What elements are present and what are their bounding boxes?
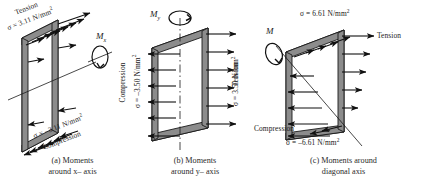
caption-panel-c: (c) Moments around diagonal axis xyxy=(258,156,429,177)
label-tension-b: Tension xyxy=(231,63,240,87)
label-stress-bottom-c: σ = –6.61 N/mm2 xyxy=(286,137,339,147)
stress-arrows-tension-c xyxy=(342,36,374,108)
moment-arrow-diagonal xyxy=(262,41,285,67)
plate-right-edge-c xyxy=(338,30,344,132)
caption-b-line1: (b) Moments xyxy=(120,156,270,167)
plate-right-edge-a xyxy=(52,20,58,133)
label-compression-b: Compression xyxy=(118,62,127,102)
label-tension-c: Tension xyxy=(377,31,401,40)
moment-label-y: My xyxy=(150,9,160,21)
caption-c-line2: diagonal axis xyxy=(258,167,429,178)
caption-c-line1: (c) Moments around xyxy=(258,156,429,167)
label-stress-left-b: σ = –3.50 N/mm2 xyxy=(131,55,141,108)
moment-label-x: Mx xyxy=(96,31,106,43)
moment-label-diagonal: M xyxy=(266,26,274,36)
plate-right-edge-b xyxy=(202,28,208,128)
caption-b-line2: around y– axis xyxy=(120,167,270,178)
label-compression-c: Compression xyxy=(254,124,294,133)
caption-panel-b: (b) Moments around y– axis xyxy=(120,156,270,177)
stress-distribution-figure: Tension σ = 3.11 N/mm2 σ = –3.11 N/mm2 C… xyxy=(0,0,429,194)
plate-left-edge-b xyxy=(152,48,158,141)
plate-left-edge-a xyxy=(22,38,28,152)
moment-arrow-x xyxy=(88,46,112,68)
label-stress-top-c: σ = 6.61 N/mm2 xyxy=(300,8,350,18)
